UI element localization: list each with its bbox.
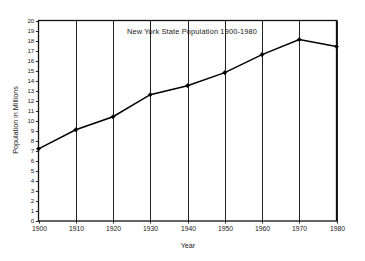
y-tick-label-0: 0 [31, 217, 35, 224]
x-axis-title: Year [181, 241, 196, 250]
y-tick-label-6: 6 [31, 157, 35, 164]
x-tick-label-1930: 1930 [143, 225, 158, 232]
y-tick-label-1: 1 [31, 207, 35, 214]
y-tick-label-3: 3 [31, 187, 35, 194]
x-tick-label-1900: 1900 [32, 225, 47, 232]
population-line-chart: 01234567891011121314151617181920 1900191… [0, 0, 365, 261]
x-tick-label-1920: 1920 [106, 225, 121, 232]
y-tick-label-11: 11 [28, 107, 35, 114]
y-tick-label-12: 12 [27, 97, 34, 104]
y-tick-label-4: 4 [31, 177, 35, 184]
y-tick-label-7: 7 [31, 147, 35, 154]
x-tick-label-1950: 1950 [218, 225, 233, 232]
x-tick-label-1910: 1910 [69, 225, 84, 232]
x-tick-label-1980: 1980 [330, 225, 345, 232]
y-tick-label-18: 18 [27, 37, 34, 44]
chart-title: New York State Population 1900-1980 [127, 27, 257, 36]
x-tick-label-1970: 1970 [292, 225, 307, 232]
y-tick-label-10: 10 [27, 117, 34, 124]
x-tick-label-1960: 1960 [255, 225, 270, 232]
y-tick-label-14: 14 [27, 77, 34, 84]
y-tick-label-20: 20 [27, 17, 34, 24]
y-tick-label-16: 16 [27, 57, 34, 64]
x-axis-tick-labels: 190019101920193019401950196019701980 [32, 225, 345, 232]
y-tick-label-15: 15 [27, 67, 34, 74]
y-tick-label-19: 19 [27, 27, 34, 34]
x-tick-label-1940: 1940 [181, 225, 196, 232]
y-tick-label-17: 17 [27, 47, 34, 54]
chart-background [0, 0, 365, 261]
y-tick-label-9: 9 [31, 127, 35, 134]
y-tick-label-5: 5 [31, 167, 35, 174]
y-tick-label-2: 2 [31, 197, 35, 204]
chart-container: 01234567891011121314151617181920 1900191… [0, 0, 365, 261]
y-tick-label-13: 13 [27, 87, 34, 94]
y-axis-title: Population in Millions [11, 86, 20, 154]
y-tick-label-8: 8 [31, 137, 35, 144]
